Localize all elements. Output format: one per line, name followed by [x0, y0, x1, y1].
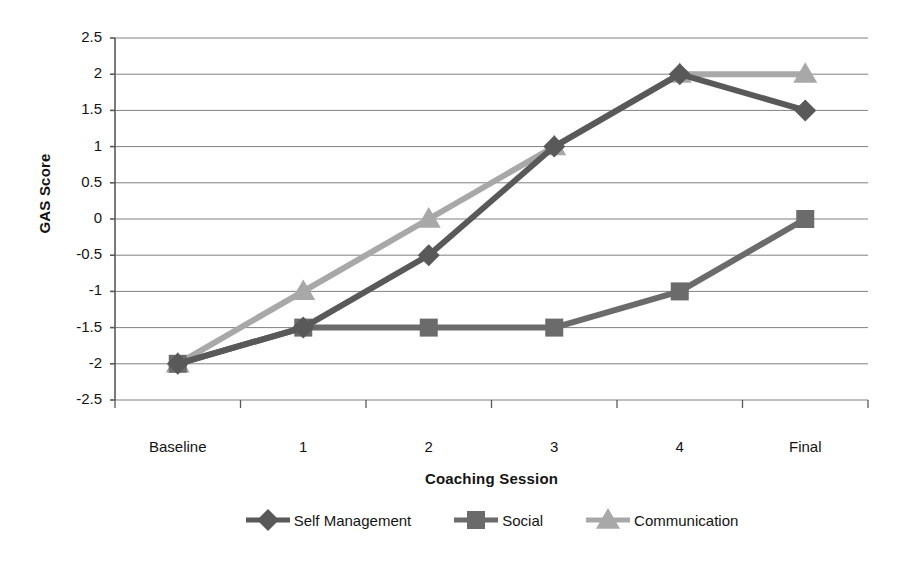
data-point-marker [796, 210, 814, 228]
y-tick-label: -1 [56, 281, 102, 298]
legend-marker-triangle-icon [585, 508, 631, 532]
y-tick-label: 0 [56, 209, 102, 226]
data-point-marker [257, 509, 279, 531]
y-tick-label: 1 [56, 137, 102, 154]
y-tick-label: 2.5 [56, 28, 102, 45]
legend-marker-diamond-icon [245, 508, 291, 532]
x-tick-label: 3 [494, 438, 614, 455]
x-tick-label: 4 [620, 438, 740, 455]
gridlines [115, 38, 868, 400]
data-point-marker [545, 319, 563, 337]
x-tick-label: 1 [243, 438, 363, 455]
legend-marker-square-icon [453, 508, 499, 532]
data-point-marker [420, 319, 438, 337]
legend-label: Social [502, 512, 543, 529]
legend-label: Communication [634, 512, 738, 529]
axis-lines [110, 38, 115, 400]
y-tick-label: -0.5 [56, 245, 102, 262]
x-tick-label: Baseline [118, 438, 238, 455]
y-tick-label: -2 [56, 354, 102, 371]
legend-label: Self Management [294, 512, 412, 529]
y-tick-label: 0.5 [56, 173, 102, 190]
x-tick-label: Final [745, 438, 865, 455]
y-tick-label: 1.5 [56, 100, 102, 117]
legend-item-communication[interactable]: Communication [585, 508, 738, 532]
plot-area [0, 0, 908, 568]
y-tick-label: -1.5 [56, 318, 102, 335]
legend-item-social[interactable]: Social [453, 508, 543, 532]
y-tick-label: -2.5 [56, 390, 102, 407]
x-axis-tick-marks [115, 400, 868, 408]
data-point-marker [467, 511, 485, 529]
x-tick-label: 2 [369, 438, 489, 455]
chart-legend: Self ManagementSocialCommunication [115, 508, 868, 532]
y-tick-label: 2 [56, 64, 102, 81]
legend-item-self-management[interactable]: Self Management [245, 508, 412, 532]
gas-score-line-chart: GAS Score Coaching Session 2.521.510.50-… [0, 0, 908, 568]
data-point-marker [794, 99, 816, 121]
data-point-marker [671, 282, 689, 300]
